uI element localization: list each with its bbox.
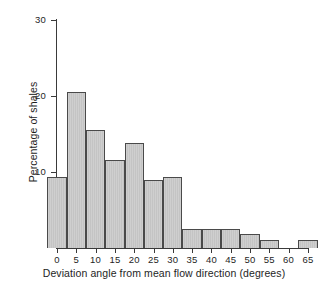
y-tick-label-10: 10: [6, 167, 46, 177]
histogram-bar: [67, 92, 86, 248]
x-tick-5: [76, 248, 77, 253]
histogram-bar: [260, 240, 279, 248]
x-tick-25: [154, 248, 155, 253]
histogram-bar: [298, 240, 317, 248]
x-tick-55: [269, 248, 270, 253]
histogram-bar: [163, 177, 182, 248]
histogram-bar: [144, 180, 163, 248]
x-tick-50: [250, 248, 251, 253]
x-tick-40: [211, 248, 212, 253]
x-tick-0: [57, 248, 58, 253]
histogram-bar: [86, 130, 105, 248]
histogram-figure: 102030 05101520253035404550556065 Deviat…: [0, 0, 328, 290]
y-tick-label-30: 30: [6, 15, 46, 25]
histogram-bar: [202, 229, 221, 248]
y-axis-title: Percentage of shales: [27, 42, 39, 222]
x-tick-20: [134, 248, 135, 253]
x-axis-title: Deviation angle from mean flow direction…: [0, 267, 328, 279]
x-tick-45: [231, 248, 232, 253]
histogram-bar: [221, 229, 240, 248]
x-tick-label-65: 65: [296, 254, 320, 265]
histogram-bar: [240, 234, 259, 248]
histogram-bar: [182, 229, 201, 248]
x-tick-60: [289, 248, 290, 253]
x-tick-35: [192, 248, 193, 253]
x-tick-10: [96, 248, 97, 253]
x-tick-15: [115, 248, 116, 253]
x-tick-65: [308, 248, 309, 253]
histogram-bar: [47, 177, 66, 248]
y-tick-label-20: 20: [6, 91, 46, 101]
x-tick-30: [173, 248, 174, 253]
histogram-bar: [105, 160, 124, 248]
histogram-bar: [125, 143, 144, 248]
